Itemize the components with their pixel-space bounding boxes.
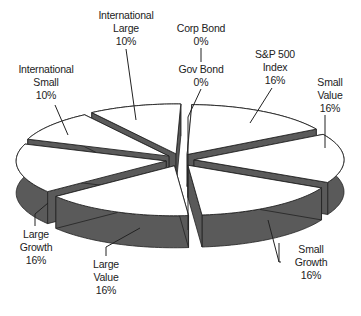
label-gov-bond: Gov Bond 0% bbox=[178, 63, 223, 89]
label-corp-bond: Corp Bond 0% bbox=[177, 22, 225, 48]
label-international-large: International Large 10% bbox=[98, 9, 153, 48]
label-large-value: Large Value 16% bbox=[93, 258, 119, 297]
label-small-value: Small Value 16% bbox=[317, 76, 342, 115]
label-small-growth: Small Growth 16% bbox=[295, 243, 328, 282]
label-large-growth: Large Growth 16% bbox=[20, 228, 53, 267]
label-international-small: International Small 10% bbox=[18, 63, 73, 102]
label-sp500-index: S&P 500 Index 16% bbox=[255, 48, 295, 87]
